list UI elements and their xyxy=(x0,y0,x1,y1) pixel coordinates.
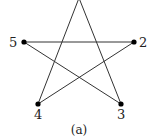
edge-1-3 xyxy=(79,0,121,104)
vertex-4 xyxy=(35,101,40,106)
figure-caption: (a) xyxy=(71,123,88,137)
vertex-label-3: 3 xyxy=(117,107,125,122)
edge-2-4 xyxy=(38,42,134,104)
edge-1-4 xyxy=(38,0,79,104)
edge-5-3 xyxy=(24,42,121,104)
vertex-label-2: 2 xyxy=(139,35,147,50)
vertex-3 xyxy=(118,101,123,106)
vertex-label-4: 4 xyxy=(34,107,42,122)
edges xyxy=(24,0,134,104)
star-graph-figure: 5 2 4 3 (a) xyxy=(0,0,149,139)
vertex-label-5: 5 xyxy=(9,35,17,50)
vertex-2 xyxy=(131,39,136,44)
vertex-5 xyxy=(21,39,26,44)
vertices xyxy=(21,39,136,106)
